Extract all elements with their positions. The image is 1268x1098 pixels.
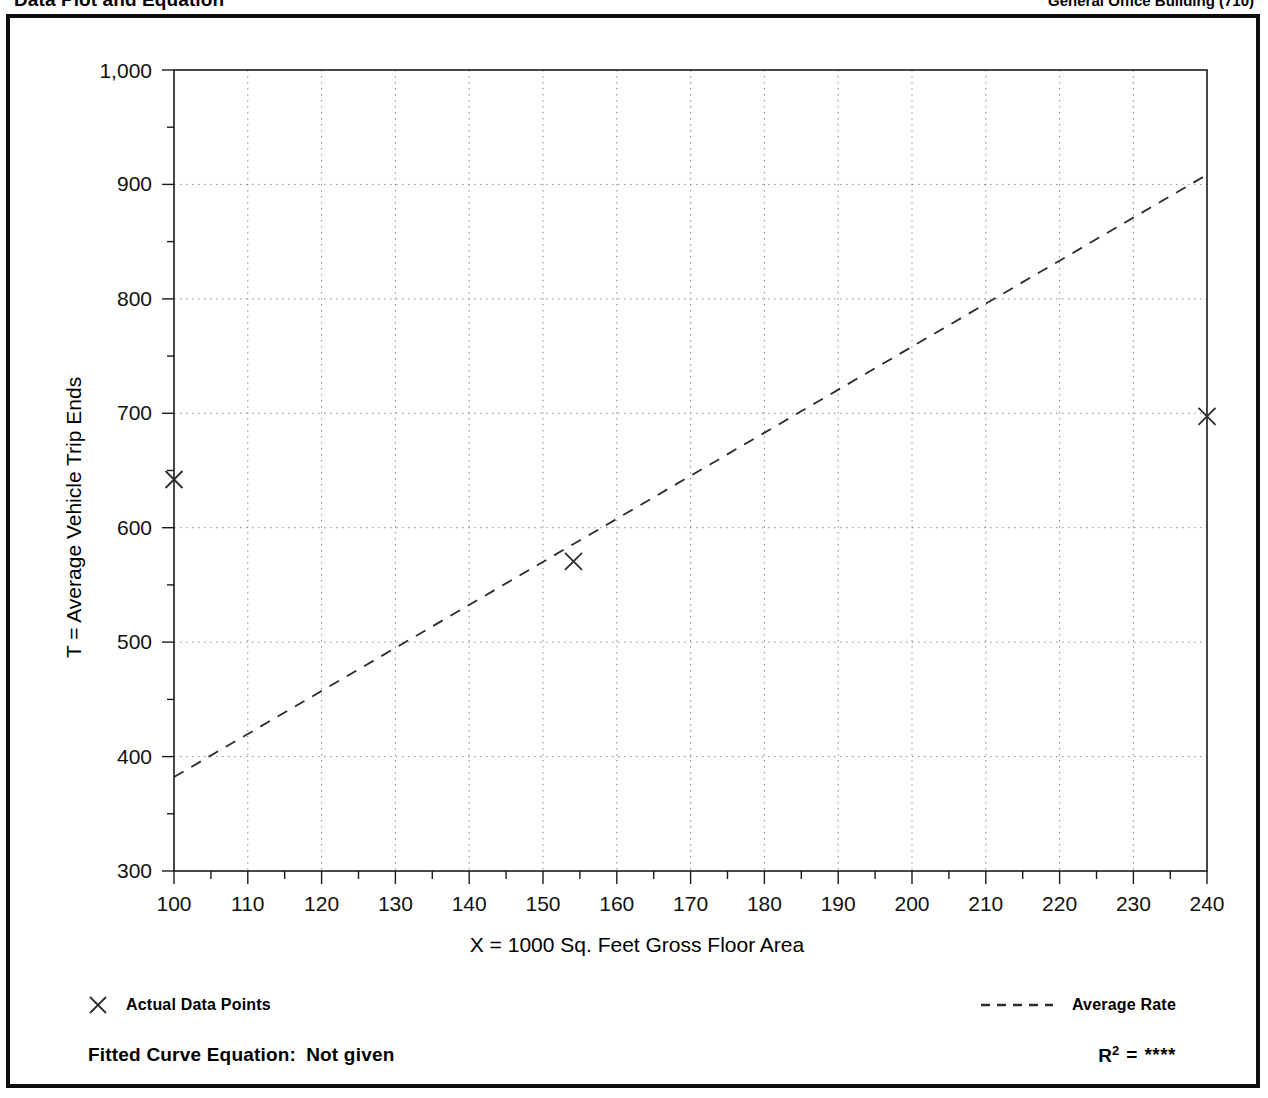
dashed-line-icon — [980, 999, 1054, 1011]
r-squared-equals: = — [1126, 1044, 1137, 1066]
page-subject: General Office Building (710) — [1048, 0, 1254, 9]
svg-text:170: 170 — [673, 892, 708, 915]
svg-text:300: 300 — [117, 859, 152, 882]
grid-lines — [174, 70, 1207, 871]
page-title: Data Plot and Equation — [14, 0, 224, 11]
x-axis-title: X = 1000 Sq. Feet Gross Floor Area — [10, 933, 1264, 957]
equation-row: Fitted Curve Equation: Not given R2 = **… — [10, 1040, 1264, 1070]
svg-text:230: 230 — [1116, 892, 1151, 915]
series-average-rate-line — [174, 175, 1207, 777]
legend-row: Actual Data Points Average Rate — [10, 990, 1264, 1020]
svg-text:500: 500 — [117, 630, 152, 653]
r-symbol: R — [1098, 1045, 1112, 1066]
fitted-curve-equation: Fitted Curve Equation: Not given — [88, 1040, 394, 1070]
r-exponent: 2 — [1112, 1043, 1119, 1058]
y-axis-title: T = Average Vehicle Trip Ends — [62, 377, 86, 658]
svg-text:600: 600 — [117, 516, 152, 539]
svg-text:120: 120 — [304, 892, 339, 915]
chart-canvas: 300 400 500 600 700 800 900 1,000 100 11… — [10, 18, 1264, 1092]
svg-text:700: 700 — [117, 401, 152, 424]
r-squared-label: R2 — [1098, 1043, 1119, 1067]
fitted-curve-value: Not given — [306, 1044, 394, 1066]
svg-text:100: 100 — [156, 892, 191, 915]
r-squared-value: R2 = **** — [1098, 1040, 1176, 1070]
svg-text:400: 400 — [117, 745, 152, 768]
figure-frame: 300 400 500 600 700 800 900 1,000 100 11… — [6, 14, 1260, 1088]
x-marker-icon — [88, 995, 108, 1015]
fitted-curve-label: Fitted Curve Equation: — [88, 1044, 296, 1066]
svg-text:130: 130 — [378, 892, 413, 915]
svg-text:180: 180 — [747, 892, 782, 915]
svg-text:220: 220 — [1042, 892, 1077, 915]
legend-item-data-points: Actual Data Points — [88, 990, 271, 1020]
y-axis-ticks — [162, 70, 174, 871]
x-axis-ticks — [174, 871, 1207, 884]
svg-text:1,000: 1,000 — [99, 59, 152, 82]
legend-item-average-rate: Average Rate — [980, 990, 1176, 1020]
svg-text:150: 150 — [525, 892, 560, 915]
r-squared-stars: **** — [1144, 1044, 1176, 1066]
y-axis-tick-labels: 300 400 500 600 700 800 900 1,000 — [99, 59, 152, 883]
series-actual-data-points — [166, 408, 1216, 570]
x-axis-tick-labels: 100 110 120 130 140 150 160 170 180 190 … — [156, 892, 1224, 915]
svg-text:800: 800 — [117, 287, 152, 310]
svg-text:140: 140 — [452, 892, 487, 915]
legend-label-data-points: Actual Data Points — [126, 996, 271, 1014]
svg-text:900: 900 — [117, 172, 152, 195]
svg-text:160: 160 — [599, 892, 634, 915]
svg-text:190: 190 — [821, 892, 856, 915]
plot-area: 300 400 500 600 700 800 900 1,000 100 11… — [10, 18, 1264, 1092]
page-header: Data Plot and Equation General Office Bu… — [0, 0, 1268, 14]
data-point-marker — [565, 553, 582, 570]
svg-text:200: 200 — [894, 892, 929, 915]
svg-text:210: 210 — [968, 892, 1003, 915]
svg-text:110: 110 — [231, 892, 264, 915]
svg-text:240: 240 — [1189, 892, 1224, 915]
legend-label-average-rate: Average Rate — [1072, 996, 1176, 1014]
